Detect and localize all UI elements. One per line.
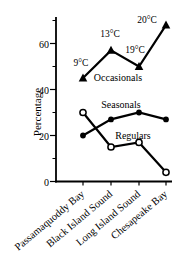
line-chart-figure: Percentage 0 20 40 60 9°C 13°C 19°C 20°C…	[0, 0, 177, 271]
temp-label-19c: 19°C	[125, 45, 145, 55]
temp-label-20c: 20°C	[137, 15, 157, 25]
y-tick-label-0: 0	[44, 177, 49, 188]
series-label-occasionals: Occasionals	[94, 72, 142, 83]
temp-label-13c: 13°C	[100, 29, 120, 39]
temp-label-9c: 9°C	[74, 58, 89, 68]
y-tick-label-20: 20	[39, 131, 49, 142]
y-tick-label-40: 40	[39, 85, 49, 96]
marker-seasonals	[136, 110, 142, 116]
marker-occasionals	[162, 21, 171, 29]
marker-seasonals	[163, 117, 169, 123]
y-tick-label-60: 60	[39, 39, 49, 50]
marker-seasonals	[108, 117, 114, 123]
chart-canvas: Percentage 0 20 40 60 9°C 13°C 19°C 20°C…	[0, 0, 177, 271]
marker-regulars	[163, 169, 169, 175]
marker-regulars	[80, 109, 86, 115]
series-label-regulars: Regulars	[115, 130, 151, 141]
series-line-regulars	[83, 113, 166, 173]
marker-seasonals	[80, 133, 86, 139]
marker-occasionals	[107, 46, 116, 54]
marker-regulars	[108, 144, 114, 150]
series-label-seasonals: Seasonals	[101, 99, 141, 110]
